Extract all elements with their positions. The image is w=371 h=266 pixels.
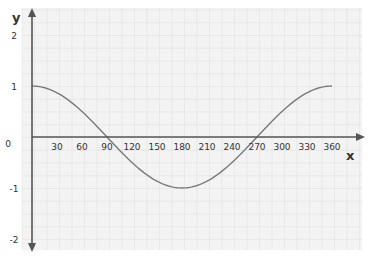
y-tick-label: -2: [10, 235, 19, 245]
x-tick-label: 180: [173, 142, 190, 152]
cosine-chart: y x 306090120150180210240270300330360210…: [0, 0, 371, 266]
x-tick-label: 300: [273, 142, 290, 152]
y-tick-label: -1: [10, 184, 19, 194]
x-tick-label: 240: [223, 142, 240, 152]
x-tick-label: 360: [323, 142, 340, 152]
x-tick-label: 90: [101, 142, 113, 152]
x-tick-label: 210: [198, 142, 215, 152]
x-tick-label: 150: [148, 142, 165, 152]
x-tick-label: 120: [123, 142, 140, 152]
x-tick-label: 270: [248, 142, 265, 152]
y-tick-label: 2: [11, 31, 17, 41]
y-tick-label: 1: [11, 82, 17, 92]
x-tick-label: 30: [51, 142, 63, 152]
x-tick-label: 60: [76, 142, 88, 152]
y-axis-label: y: [12, 10, 21, 25]
x-axis-label: x: [346, 148, 355, 163]
x-tick-label: 330: [298, 142, 315, 152]
y-tick-label: 0: [5, 139, 11, 149]
